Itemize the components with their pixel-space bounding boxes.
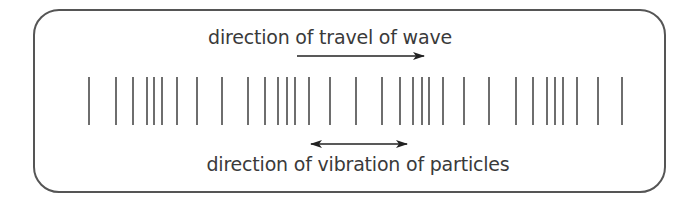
longitudinal-wave-diagram (0, 0, 696, 198)
particle-lines (89, 77, 622, 125)
